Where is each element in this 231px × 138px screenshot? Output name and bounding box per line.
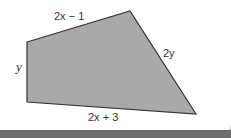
bottom-side-label: 2x + 3 (88, 111, 118, 123)
right-side-label: 2y (163, 47, 175, 59)
quadrilateral-shape (27, 11, 196, 114)
top-side-label: 2x − 1 (54, 10, 84, 22)
left-side-label: y (16, 59, 22, 75)
bottom-border (0, 130, 231, 138)
diagram-canvas: 2x − 1 2y y 2x + 3 (0, 0, 231, 138)
